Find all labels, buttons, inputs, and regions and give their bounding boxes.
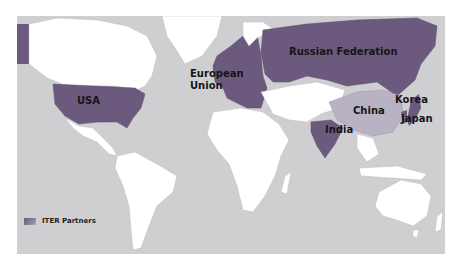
legend-text: ITER Partners bbox=[42, 217, 96, 225]
label-japan: Japan bbox=[401, 113, 433, 124]
label-eu-line1: European bbox=[190, 68, 244, 79]
label-korea: Korea bbox=[395, 94, 428, 105]
usa-shape bbox=[53, 84, 145, 128]
world-map: USA European Union Russian Federation Ch… bbox=[17, 16, 445, 254]
map-legend: ITER Partners bbox=[24, 215, 96, 227]
label-china: China bbox=[353, 105, 385, 116]
label-russia: Russian Federation bbox=[289, 46, 398, 57]
russia-shape bbox=[261, 18, 437, 96]
label-usa: USA bbox=[77, 95, 100, 106]
label-india: India bbox=[325, 124, 353, 135]
label-eu-line2: Union bbox=[190, 80, 223, 91]
partner-swatch-icon bbox=[24, 218, 36, 225]
